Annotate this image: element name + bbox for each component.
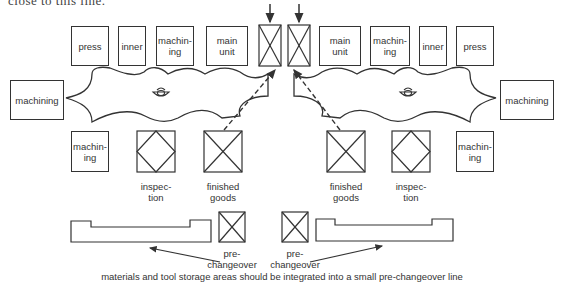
right-flow-area: [294, 67, 496, 122]
left-machining-station: machin- ing: [156, 26, 194, 66]
left-bottom-machining-station: machin- ing: [71, 131, 109, 172]
right-inspection-label: inspec- tion: [386, 181, 436, 203]
left-inspection-label: inspec- tion: [131, 181, 181, 203]
right-main-unit-station: main unit: [319, 26, 361, 66]
inspection-icon-left: [137, 131, 175, 172]
right-bottom-machining-station: machin- ing: [456, 131, 494, 172]
inspection-icon-right: [392, 131, 430, 172]
left-pre-changeover-label: pre- changeover: [202, 248, 262, 270]
finished-goods-icon-right: [327, 131, 365, 172]
left-side-machining-station: machining: [10, 80, 64, 120]
right-side-machining-station: machining: [500, 80, 554, 120]
right-machining-station: machin- ing: [370, 26, 410, 66]
left-finished-goods-label: finished goods: [198, 181, 248, 203]
left-main-unit-station: main unit: [206, 26, 248, 66]
pre-changeover-icon-right: [282, 212, 308, 242]
dashed-arrow-right: [294, 70, 340, 130]
operator-eye-icon-left: [153, 88, 169, 96]
left-press-station: press: [71, 26, 109, 66]
right-inner-station: inner: [419, 26, 447, 66]
left-flow-area: [66, 67, 268, 122]
storage-line-right: [316, 219, 453, 241]
input-box-left-icon: [259, 25, 281, 66]
storage-line-left: [71, 220, 211, 242]
cell-layout-diagram: close to this line.: [0, 0, 564, 294]
right-finished-goods-label: finished goods: [321, 181, 371, 203]
right-pre-changeover-label: pre- changeover: [265, 248, 325, 270]
operator-eye-icon-right: [400, 88, 416, 96]
left-inner-station: inner: [118, 26, 146, 66]
pre-changeover-icon-left: [219, 212, 245, 242]
finished-goods-icon-left: [204, 131, 242, 172]
diagram-caption: materials and tool storage areas should …: [0, 271, 564, 282]
right-press-station: press: [456, 26, 494, 66]
input-box-right-icon: [288, 25, 310, 66]
